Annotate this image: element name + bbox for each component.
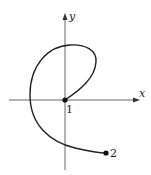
x-axis: [9, 98, 140, 103]
y-axis-label: y: [68, 10, 76, 23]
end-point-marker: [103, 150, 108, 155]
diagram-canvas: x y 1 2: [0, 0, 151, 175]
y-axis-arrow-icon: [63, 13, 68, 20]
y-axis: [63, 13, 68, 170]
x-axis-label: x: [139, 87, 146, 100]
curve-diagram: x y 1 2: [0, 0, 151, 175]
start-point-marker: [62, 97, 67, 102]
curve-path: [30, 45, 106, 153]
start-point-label: 1: [66, 103, 73, 116]
end-point-label: 2: [110, 147, 117, 160]
